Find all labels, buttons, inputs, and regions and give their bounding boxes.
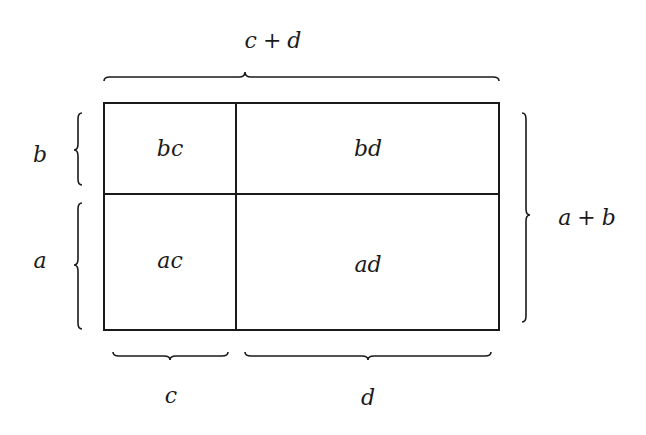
left-brace-b xyxy=(74,113,82,185)
cell-bd: bd xyxy=(354,136,382,161)
left-brace-a xyxy=(74,203,82,329)
bottom-brace-d xyxy=(245,352,491,360)
area-model-diagram: c+d bc bd ac ad b a a+b c d xyxy=(0,0,646,435)
cell-ad: ad xyxy=(354,252,381,277)
bottom-label-c: c xyxy=(165,383,177,408)
top-brace xyxy=(104,72,499,81)
bottom-label-d: d xyxy=(361,385,375,410)
top-total-label: c+d xyxy=(245,28,302,53)
left-label-b: b xyxy=(33,142,47,167)
right-total-label: a+b xyxy=(558,205,616,230)
right-brace xyxy=(522,113,530,322)
cell-ac: ac xyxy=(157,248,182,273)
left-label-a: a xyxy=(33,248,46,273)
bottom-brace-c xyxy=(113,352,228,360)
cell-bc: bc xyxy=(157,136,183,161)
